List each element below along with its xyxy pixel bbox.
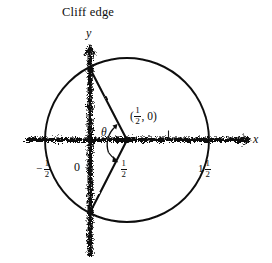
angle-arc-theta xyxy=(107,124,118,162)
paren-open: ( xyxy=(130,110,134,122)
x-tick-label-one-and-half: 112 xyxy=(198,160,211,180)
fraction: 12 xyxy=(121,159,127,179)
angle-theta-label: θ xyxy=(101,127,107,139)
diagram-canvas xyxy=(0,0,272,263)
figure-caption: Cliff edge xyxy=(62,6,114,19)
center-point-label: (12, 0) xyxy=(130,107,157,127)
one-half-fraction: 12 xyxy=(134,106,141,126)
lower-intersection-dot xyxy=(88,209,94,215)
upper-intersection-dot xyxy=(88,67,94,73)
x-axis-label: x xyxy=(253,133,258,145)
cliff-edge-figure: Cliff edge y x θ (12, 0) −12 0 12 112 xyxy=(0,0,272,263)
x-tick-label-origin: 0 xyxy=(74,161,80,173)
fraction: 12 xyxy=(205,159,211,179)
paren-close-zero: , 0) xyxy=(141,110,156,122)
whole-part: 1 xyxy=(198,162,204,174)
y-axis-label: y xyxy=(86,27,91,39)
center-point-dot xyxy=(124,137,130,143)
minus-sign: − xyxy=(36,162,42,174)
fraction: 12 xyxy=(44,159,50,179)
x-axis xyxy=(26,131,252,147)
x-tick-label-neg-half: −12 xyxy=(36,160,51,180)
x-tick-label-half: 12 xyxy=(120,160,127,180)
